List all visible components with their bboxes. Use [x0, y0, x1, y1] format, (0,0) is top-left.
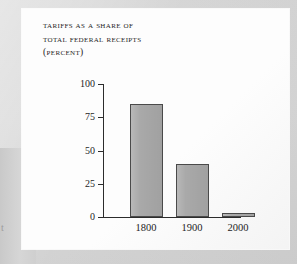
bar-1900	[176, 164, 209, 217]
x-axis-tick-label-1800: 1800	[123, 222, 169, 233]
y-axis-line	[103, 84, 104, 218]
x-axis-tick-label-1900: 1900	[169, 222, 215, 233]
y-axis-tick	[98, 184, 103, 185]
y-axis-tick-label: 100	[65, 79, 95, 89]
y-axis-tick-label: 50	[65, 146, 95, 156]
bar-shading	[223, 214, 254, 216]
bar-shading	[131, 105, 162, 216]
y-axis-tick-label: 25	[65, 179, 95, 189]
y-axis-tick-label: 0	[65, 212, 95, 222]
y-axis-tick-label: 75	[65, 112, 95, 122]
x-axis-line	[103, 217, 241, 218]
y-axis-tick	[98, 217, 103, 218]
bar-shading	[177, 165, 208, 216]
bar-2000	[222, 213, 255, 217]
x-axis-tick-label-2000: 2000	[215, 222, 261, 233]
bar-chart-plot-area: 0255075100 180019002000	[0, 0, 297, 264]
y-axis-tick	[98, 151, 103, 152]
y-axis-tick	[98, 84, 103, 85]
y-axis-tick	[98, 117, 103, 118]
bar-1800	[130, 104, 163, 217]
